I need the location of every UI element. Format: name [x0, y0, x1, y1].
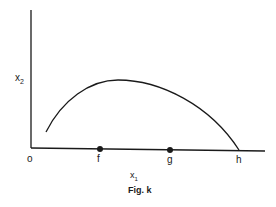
diagram-canvas: [0, 0, 276, 207]
point-f: [97, 146, 103, 152]
y-axis-label: x2: [15, 73, 24, 85]
point-h-label: h: [236, 155, 242, 165]
figure-caption: Fig. k: [128, 185, 152, 195]
point-g: [167, 147, 173, 153]
x-axis-label: x1: [130, 171, 138, 182]
point-g-label: g: [167, 155, 173, 165]
origin-label: o: [27, 154, 33, 164]
point-f-label: f: [97, 154, 100, 164]
curve: [46, 80, 239, 150]
x-axis: [31, 148, 265, 151]
